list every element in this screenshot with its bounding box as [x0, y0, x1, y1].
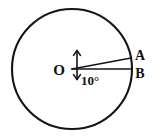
geometry-figure: O A B 10°	[0, 0, 163, 139]
label-angle-value: 10°	[81, 73, 99, 88]
label-point-b: B	[135, 66, 144, 81]
label-center-o: O	[53, 62, 65, 78]
label-point-a: A	[135, 48, 146, 63]
diagram-canvas: O A B 10°	[0, 0, 163, 139]
radius-line-oa	[72, 58, 131, 69]
angle-marker-arrow	[74, 50, 81, 79]
